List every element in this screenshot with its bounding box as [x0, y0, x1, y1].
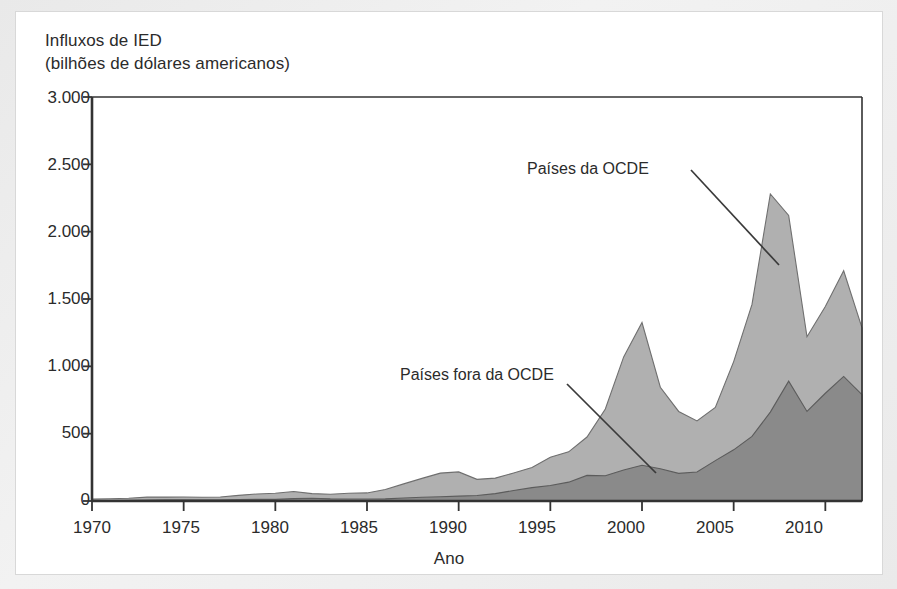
figure-root: Influxos de IED (bilhões de dólares amer…	[0, 0, 897, 589]
x-axis-ticks	[92, 501, 825, 511]
annotation-label-non-oecd: Países fora da OCDE	[400, 366, 554, 384]
series-area-group	[92, 194, 862, 501]
leader-line-oecd	[691, 170, 779, 265]
area-chart-plot	[16, 12, 882, 574]
annotation-label-oecd: Países da OCDE	[527, 160, 649, 178]
x-axis-title: Ano	[16, 549, 882, 569]
figure-panel: Influxos de IED (bilhões de dólares amer…	[16, 12, 882, 574]
y-axis-ticks	[83, 97, 92, 501]
